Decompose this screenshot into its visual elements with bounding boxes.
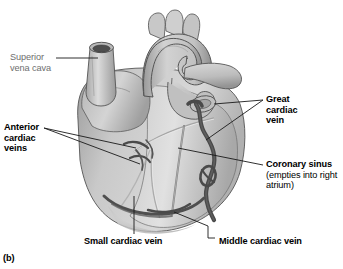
figure-container: Superior vena cava Anterior cardiac vein… [0,0,343,269]
label-great-cardiac-vein: Great cardiac vein [266,94,297,126]
figure-caption: (b) [3,253,14,264]
label-coronary-sinus: Coronary sinus (empties into right atriu… [266,159,342,191]
label-coronary-sinus-bold: Coronary sinus [266,159,332,169]
label-middle-cardiac-vein: Middle cardiac vein [219,236,302,247]
label-superior-vena-cava: Superior vena cava [10,52,51,73]
label-coronary-sinus-note: (empties into right atrium) [266,170,337,191]
label-small-cardiac-vein: Small cardiac vein [84,236,162,247]
label-great-cardiac-vein-line3: vein [266,115,297,126]
superior-vena-cava-vessel [86,42,116,106]
heart-anatomy-illustration [0,0,343,269]
label-anterior-cardiac-veins-line3: veins [4,143,39,154]
label-great-cardiac-vein-line2: cardiac [266,105,297,116]
label-anterior-cardiac-veins-line1: Anterior [4,122,39,133]
label-anterior-cardiac-veins-line2: cardiac [4,133,39,144]
label-anterior-cardiac-veins: Anterior cardiac veins [4,122,39,154]
label-great-cardiac-vein-line1: Great [266,94,297,105]
label-superior-vena-cava-line1: Superior [10,52,51,63]
label-superior-vena-cava-line2: vena cava [10,63,51,74]
